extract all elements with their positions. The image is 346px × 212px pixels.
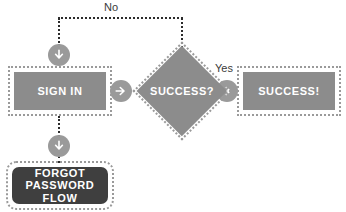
node-success[interactable]: SUCCESS! xyxy=(243,72,335,110)
node-decision-success[interactable]: SUCCESS? xyxy=(137,46,227,136)
node-forgot-password-flow[interactable]: FORGOT PASSWORD FLOW xyxy=(12,167,108,204)
decision-node-label: SUCCESS? xyxy=(137,46,227,136)
node-sign-in[interactable]: SIGN IN xyxy=(14,72,106,110)
forgot-password-label-line2: PASSWORD FLOW xyxy=(26,179,95,203)
connector-no-vertical-left xyxy=(58,18,60,46)
arrow-right-icon xyxy=(110,80,132,102)
connector-no-horizontal xyxy=(58,17,183,19)
flowchart-canvas: No Yes SIGN IN SUCCESS? SUCCESS! FOR xyxy=(0,0,346,212)
arrow-down-icon xyxy=(48,44,70,66)
forgot-password-label-line1: FORGOT xyxy=(35,167,86,179)
connector-signin-to-forgot-upper xyxy=(58,116,60,137)
edge-label-no: No xyxy=(104,1,118,13)
arrow-down-icon xyxy=(48,135,70,157)
